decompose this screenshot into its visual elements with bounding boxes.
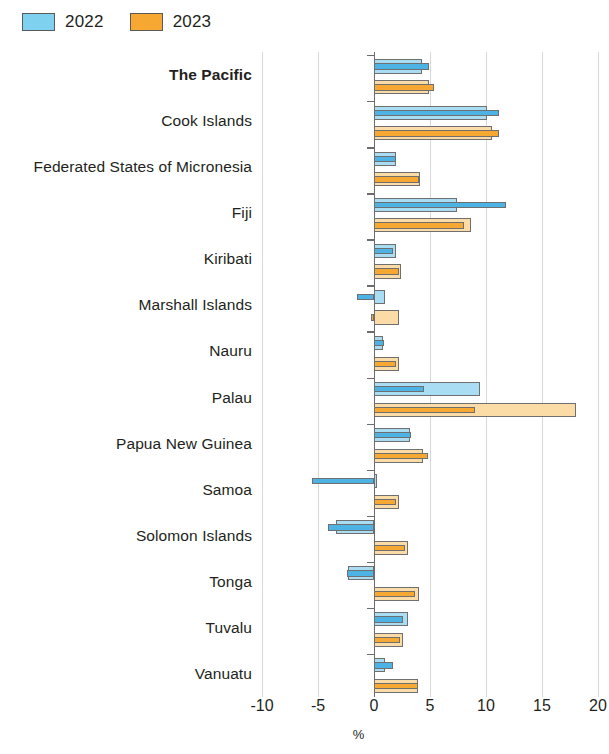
bar-2023-deep: [374, 361, 396, 367]
bar-2022-deep: [374, 340, 384, 346]
x-tick-label: -10: [250, 697, 273, 715]
bar-2022-deep: [347, 570, 374, 576]
bar-2022-deep: [374, 63, 429, 69]
bar-2022-deep: [374, 248, 393, 254]
bar-2022-deep: [328, 524, 374, 530]
category-label: Palau: [0, 389, 252, 407]
category-tick: [367, 147, 374, 148]
category-tick: [367, 562, 374, 563]
bar-2023-deep: [374, 222, 464, 228]
bar-2022-deep: [374, 662, 393, 668]
category-label: Nauru: [0, 342, 252, 360]
bar-2023-deep: [374, 130, 499, 136]
bar-2023-deep: [374, 84, 434, 90]
bar-2023-deep: [374, 499, 396, 505]
category-label: Tuvalu: [0, 619, 252, 637]
category-label: Papua New Guinea: [0, 435, 252, 453]
gridline-5: [430, 52, 431, 697]
bar-2023-deep: [374, 453, 428, 459]
pacific-growth-bar-chart: 2022 2023 The PacificCook IslandsFederat…: [0, 0, 609, 754]
category-tick: [367, 193, 374, 194]
category-tick: [367, 239, 374, 240]
legend-label-2022: 2022: [65, 12, 104, 32]
category-label: Vanuatu: [0, 665, 252, 683]
category-label: The Pacific: [0, 66, 252, 84]
category-label: Tonga: [0, 573, 252, 591]
x-tick-label: 15: [533, 697, 551, 715]
category-label: Fiji: [0, 204, 252, 222]
bar-2022-deep: [374, 386, 424, 392]
bar-2022-pale: [374, 290, 385, 304]
category-tick: [367, 424, 374, 425]
category-tick: [367, 470, 374, 471]
category-axis-labels: The PacificCook IslandsFederated States …: [0, 52, 252, 697]
bar-2022-deep: [374, 432, 411, 438]
category-label: Federated States of Micronesia: [0, 158, 252, 176]
bar-2022-deep: [374, 202, 506, 208]
bar-2022-deep: [374, 616, 403, 622]
bar-2023-deep: [374, 268, 399, 274]
category-tick: [367, 516, 374, 517]
bar-2023-deep: [374, 591, 415, 597]
bar-2023-deep: [374, 176, 419, 182]
gridline--5: [318, 52, 319, 697]
category-label: Samoa: [0, 481, 252, 499]
bar-2023-deep: [374, 545, 405, 551]
x-axis-title-text: %: [353, 727, 365, 742]
gridline-15: [542, 52, 543, 697]
x-tick-label: 5: [426, 697, 435, 715]
category-tick: [367, 285, 374, 286]
legend-swatch-2023: [130, 13, 163, 31]
gridline-20: [598, 52, 599, 697]
bars-panel: [262, 52, 598, 697]
bar-2022-deep: [312, 478, 374, 484]
category-tick: [367, 101, 374, 102]
bar-2023-pale: [374, 310, 399, 324]
category-label: Kiribati: [0, 250, 252, 268]
category-tick: [367, 331, 374, 332]
gridline-10: [486, 52, 487, 697]
bar-2023-deep: [374, 637, 400, 643]
chart-legend: 2022 2023: [22, 12, 211, 32]
legend-item-2022: 2022: [22, 12, 104, 32]
legend-label-2023: 2023: [173, 12, 212, 32]
x-tick-label: 0: [370, 697, 379, 715]
category-label: Solomon Islands: [0, 527, 252, 545]
category-label: Cook Islands: [0, 112, 252, 130]
x-axis-title: %: [0, 727, 609, 742]
category-tick: [367, 608, 374, 609]
plot-area: The PacificCook IslandsFederated States …: [0, 52, 609, 702]
bar-2023-deep: [374, 407, 475, 413]
category-label: Marshall Islands: [0, 296, 252, 314]
x-axis-ticks: -10-505101520: [262, 697, 598, 721]
category-tick: [367, 378, 374, 379]
bar-2023-deep: [374, 683, 418, 689]
x-tick-label: 10: [477, 697, 495, 715]
category-tick: [367, 654, 374, 655]
x-tick-label: 20: [589, 697, 607, 715]
x-tick-label: -5: [311, 697, 325, 715]
bar-2022-deep: [374, 156, 396, 162]
bar-2022-pale: [374, 474, 377, 488]
legend-swatch-2022: [22, 13, 55, 31]
category-tick: [367, 55, 374, 56]
bar-2023-deep: [371, 314, 374, 320]
bar-2022-deep: [374, 110, 499, 116]
legend-item-2023: 2023: [130, 12, 212, 32]
bar-2022-deep: [357, 294, 374, 300]
gridline--10: [262, 52, 263, 697]
